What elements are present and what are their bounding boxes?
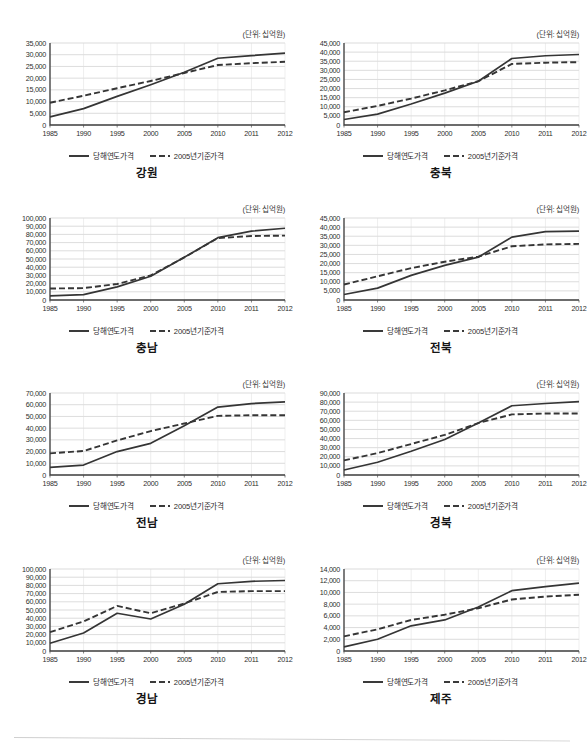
x-axis-tick-label: 2005 [177,655,192,664]
chart-title-region: 전남 [0,514,293,530]
x-axis-tick-label: 2010 [210,129,225,138]
y-axis-tick-label: 4,000 [324,623,341,632]
y-axis-tick-label: 20,000 [26,447,46,456]
y-axis-tick-label: 14,000 [320,565,340,574]
x-axis-tick-label: 2012 [278,129,293,138]
chart-title-region: 제주 [294,690,587,706]
chart-panel-8: (단위: 십억원)02,0004,0006,0008,00010,00012,0… [294,552,587,728]
y-axis-tick-label: 40,000 [26,424,46,433]
y-axis-tick-label: 30,000 [320,66,340,75]
y-axis-tick-label: 25,000 [320,75,340,84]
legend-label: 당해연도가격 [93,500,134,511]
legend-label: 당해연도가격 [93,676,134,687]
legend-label: 2005년기준가격 [174,325,224,336]
series-line-1 [344,402,579,470]
x-axis-tick-label: 1990 [370,304,385,313]
x-axis-tick-label: 2000 [143,304,158,313]
y-axis-tick-label: 70,000 [26,589,46,598]
y-axis-tick-label: 25,000 [26,62,46,71]
x-axis-tick-label: 2005 [471,655,486,664]
legend-label: 2005년기준가격 [468,676,518,687]
series-line-2 [50,62,285,103]
legend-label: 당해연도가격 [93,325,134,336]
x-axis-tick-label: 2010 [210,304,225,313]
chart-panel-3: (단위: 십억원)010,00020,00030,00040,00050,000… [0,201,293,377]
x-axis-tick-label: 1990 [370,655,385,664]
x-axis-tick-label: 2011 [538,479,553,488]
chart-plot-area: 05,00010,00015,00020,00025,00030,00035,0… [294,39,587,144]
x-axis-tick-label: 1985 [337,655,352,664]
y-axis-tick-label: 15,000 [320,268,340,277]
y-axis-tick-label: 60,000 [320,416,340,425]
y-axis-tick-label: 100,000 [22,214,46,223]
chart-title-region: 충북 [294,164,587,180]
chart-panel-1: (단위: 십억원)05,00010,00015,00020,00025,0003… [0,26,293,202]
chart-unit-note: (단위: 십억원) [243,554,285,565]
chart-legend: 당해연도가격2005년기준가격 [0,500,293,511]
x-axis-tick-label: 1990 [370,479,385,488]
series-line-2 [50,236,285,289]
chart-plot-area: 010,00020,00030,00040,00050,00060,00070,… [0,565,293,670]
legend-label: 당해연도가격 [387,500,428,511]
chart-unit-note: (단위: 십억원) [537,554,579,565]
y-axis-tick-label: 10,000 [320,461,340,470]
y-axis-tick-label: 80,000 [26,230,46,239]
series-line-1 [50,402,285,468]
y-axis-tick-label: 10,000 [320,102,340,111]
x-axis-tick-label: 1995 [404,479,419,488]
legend-item-1: 당해연도가격 [69,325,134,336]
chart-legend: 당해연도가격2005년기준가격 [0,325,293,336]
x-axis-tick-label: 1985 [337,129,352,138]
y-axis-tick-label: 60,000 [26,597,46,606]
x-axis-tick-label: 1995 [404,129,419,138]
y-axis-tick-label: 30,000 [26,435,46,444]
chart-plot-area: 010,00020,00030,00040,00050,00060,00070,… [0,214,293,319]
chart-unit-note: (단위: 십억원) [537,203,579,214]
legend-label: 2005년기준가격 [174,150,224,161]
x-axis-tick-label: 2011 [538,655,553,664]
legend-label: 당해연도가격 [387,676,428,687]
y-axis-tick-label: 8,000 [324,600,341,609]
chart-legend: 당해연도가격2005년기준가격 [294,150,587,161]
y-axis-tick-label: 20,000 [26,630,46,639]
x-axis-tick-label: 2011 [244,129,259,138]
legend-label: 당해연도가격 [93,150,134,161]
x-axis-tick-label: 1990 [76,479,91,488]
chart-panel-4: (단위: 십억원)05,00010,00015,00020,00025,0003… [294,201,587,377]
x-axis-tick-label: 2011 [244,304,259,313]
y-axis-tick-label: 45,000 [320,39,340,48]
y-axis-tick-label: 20,000 [320,452,340,461]
chart-plot-area: 02,0004,0006,0008,00010,00012,00014,0001… [294,565,587,670]
x-axis-tick-label: 2005 [471,129,486,138]
legend-item-1: 당해연도가격 [69,500,134,511]
legend-item-1: 당해연도가격 [69,676,134,687]
x-axis-tick-label: 2012 [278,304,293,313]
x-axis-tick-label: 1985 [43,655,58,664]
x-axis-tick-label: 2000 [437,479,452,488]
y-axis-tick-label: 40,000 [26,614,46,623]
x-axis-tick-label: 1995 [404,655,419,664]
report-page: (단위: 십억원)05,00010,00015,00020,00025,0003… [0,0,587,756]
y-axis-tick-label: 30,000 [320,443,340,452]
y-axis-tick-label: 60,000 [26,246,46,255]
x-axis-tick-label: 1990 [76,129,91,138]
y-axis-tick-label: 10,000 [320,588,340,597]
series-line-1 [344,231,579,294]
x-axis-tick-label: 1995 [110,304,125,313]
y-axis-tick-label: 5,000 [324,286,341,295]
y-axis-tick-label: 10,000 [26,97,46,106]
x-axis-tick-label: 2012 [278,655,293,664]
y-axis-tick-label: 90,000 [320,389,340,398]
chart-panel-6: (단위: 십억원)010,00020,00030,00040,00050,000… [294,376,587,552]
y-axis-tick-label: 70,000 [26,238,46,247]
y-axis-tick-label: 35,000 [320,232,340,241]
y-axis-tick-label: 50,000 [320,425,340,434]
y-axis-tick-label: 90,000 [26,222,46,231]
series-line-1 [50,580,285,643]
chart-panel-2: (단위: 십억원)05,00010,00015,00020,00025,0003… [294,26,587,202]
y-axis-tick-label: 15,000 [26,85,46,94]
x-axis-tick-label: 2010 [504,479,519,488]
x-axis-tick-label: 2011 [244,479,259,488]
chart-unit-note: (단위: 십억원) [243,378,285,389]
x-axis-tick-label: 1995 [110,479,125,488]
